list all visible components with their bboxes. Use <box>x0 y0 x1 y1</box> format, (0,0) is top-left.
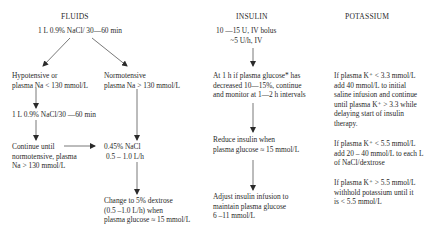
continue-until-step: Continue until normotensive, plasma Na >… <box>12 142 77 171</box>
dextrose-step: Change to 5% dextrose (0.5 –1.0 L/h) whe… <box>104 196 190 225</box>
arrow-start-to-hypotensive <box>43 38 70 66</box>
potassium-mid-rule: If plasma K⁺ < 5.5 mmol/L add 20 – 40 mm… <box>334 139 423 168</box>
insulin-header: INSULIN <box>236 12 268 22</box>
fluids-start-step: 1 L 0.9% NaCl/ 30—60 min <box>38 26 122 36</box>
potassium-low-rule: If plasma K⁺ < 3.3 mmol/L add 40 mmol/L … <box>334 71 417 129</box>
hypotensive-step: Hypotensive or plasma Na < 130 mmol/L <box>12 71 88 90</box>
insulin-adjust-step: Adjust insulin infusion to maintain plas… <box>213 192 288 221</box>
potassium-high-rule: If plasma K⁺ > 5.5 mmol/L withhold potas… <box>334 178 416 207</box>
repeat-saline-step: 1 L 0.9% NaCl/30 —60 min <box>12 110 96 120</box>
arrow-start-to-normotensive <box>92 38 127 66</box>
insulin-bolus-step: 10 —15 U, IV bolus ~5 U/h, IV <box>216 26 276 45</box>
normotensive-step: Normotensive plasma Na > 130 mmol/L <box>104 71 180 90</box>
insulin-check-step: At 1 h if plasma glucose* has decreased … <box>213 71 306 100</box>
potassium-header: POTASSIUM <box>345 12 389 22</box>
fluids-header: FLUIDS <box>61 12 89 22</box>
half-saline-step: 0.45% NaCl 0.5 – 1.0 L/h <box>104 142 144 161</box>
insulin-reduce-step: Reduce insulin when plasma glucose ≈ 15 … <box>213 135 299 154</box>
